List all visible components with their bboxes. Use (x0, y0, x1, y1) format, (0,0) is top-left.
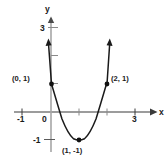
point-marker-2-1 (105, 82, 110, 87)
parabola-curve (46, 39, 113, 141)
x-tick-label-0: 0 (42, 114, 47, 124)
x-axis-arrow-icon (150, 109, 158, 116)
point-marker-0-1 (49, 82, 54, 87)
x-tick-label-3: 3 (132, 114, 137, 124)
parabola-path-right-branch (107, 45, 110, 84)
point-label-1-neg1: (1, -1) (62, 146, 83, 155)
point-marker-1-neg1 (77, 138, 82, 143)
x-axis-label: x (159, 107, 164, 117)
parabola-graph-figure: -1 0 3 3 -1 y x (0, 1) (2, 1) (1, -1) (0, 0, 168, 160)
graph-canvas: -1 0 3 3 -1 y x (0, 1) (2, 1) (1, -1) (0, 0, 168, 160)
y-tick-label--1: -1 (33, 135, 41, 145)
y-tick-label-3: 3 (40, 23, 45, 33)
parabola-right-arrow-icon (107, 39, 113, 47)
y-axis-arrow-icon (48, 17, 54, 24)
point-label-0-1: (0, 1) (12, 74, 30, 83)
y-axis-label: y (45, 4, 50, 14)
point-label-2-1: (2, 1) (111, 74, 129, 83)
x-tick-label--1: -1 (17, 114, 25, 124)
